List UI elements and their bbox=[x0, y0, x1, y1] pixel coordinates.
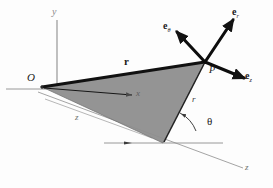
position-vector-label: r bbox=[124, 56, 129, 67]
unit-vector-ez-subscript: z bbox=[249, 76, 251, 83]
unit-vector-ez-label: ez bbox=[245, 71, 252, 83]
axis-z-label: z bbox=[245, 163, 249, 172]
origin-marker bbox=[41, 86, 44, 89]
base-line-arrowhead bbox=[124, 141, 132, 144]
dimension-z-label: z bbox=[75, 113, 79, 122]
point-p-label: P bbox=[209, 65, 215, 75]
theta-arc bbox=[180, 113, 196, 131]
unit-vector-etheta-subscript: θ bbox=[167, 26, 170, 33]
unit-vector-er-line bbox=[205, 20, 233, 62]
point-p-marker bbox=[203, 60, 206, 63]
unit-vector-etheta-line bbox=[177, 32, 205, 62]
unit-vector-er-label: er bbox=[232, 7, 239, 19]
axis-x-label: x bbox=[136, 89, 140, 98]
axis-y-label: y bbox=[52, 7, 56, 17]
origin-label: O bbox=[27, 72, 35, 83]
theta-label: θ bbox=[207, 116, 212, 127]
figure-canvas: y O x z z r r θ P er eθ ez bbox=[0, 0, 273, 188]
unit-vector-etheta-label: eθ bbox=[163, 21, 171, 33]
radius-scalar-label: r bbox=[192, 95, 196, 104]
unit-vector-er-subscript: r bbox=[236, 12, 238, 19]
